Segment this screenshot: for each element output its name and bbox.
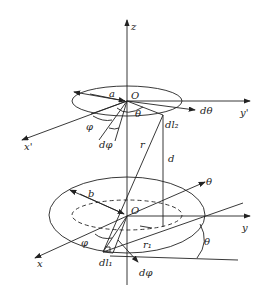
phi-ref-line [91, 101, 127, 114]
label-dtheta: dθ [200, 105, 212, 116]
label-b: b [88, 188, 94, 199]
phi-arc-top [93, 116, 112, 121]
label-x: x [37, 258, 43, 269]
label-dl1: dl₁ [99, 257, 113, 268]
label-y: y [241, 222, 248, 233]
r-line [103, 115, 163, 252]
label-theta-bottom: θ [204, 236, 210, 247]
r1-line [103, 203, 243, 252]
dphi-line-2 [115, 101, 127, 141]
label-y-prime: y' [239, 107, 248, 118]
two-loop-diagram: z O a y' x' dθ θ φ dφ dl₂ r d O b θ y x … [0, 0, 265, 300]
label-theta-top: θ [135, 108, 141, 119]
label-d: d [168, 153, 174, 164]
label-r1: r₁ [143, 239, 152, 250]
label-dphi-top: dφ [99, 139, 112, 150]
label-z: z [130, 21, 137, 32]
label-top-origin: O [131, 90, 139, 101]
tangent-line [110, 256, 238, 260]
small-angle-mark [140, 226, 152, 228]
label-a: a [109, 88, 115, 99]
label-phi-top: φ [86, 121, 93, 132]
label-dl2: dl₂ [165, 119, 179, 130]
label-theta-axis: θ [206, 176, 212, 187]
radius-a-arrow-in [90, 94, 125, 101]
label-x-prime: x' [24, 141, 32, 152]
radius-b-arrow-in [80, 194, 124, 214]
dphi-arc-top [109, 128, 119, 129]
label-phi-bottom: φ [81, 237, 88, 248]
label-r: r [140, 139, 146, 150]
label-dphi-bottom: dφ [139, 267, 152, 278]
label-bottom-origin: O [131, 205, 139, 216]
